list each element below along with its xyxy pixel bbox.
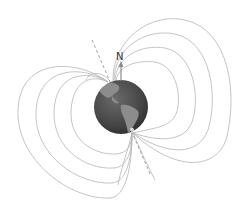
- north-arrow: [119, 61, 124, 81]
- magnetic-field-diagram: N: [0, 0, 251, 210]
- earth-globe: [94, 80, 148, 134]
- north-label: N: [116, 51, 123, 62]
